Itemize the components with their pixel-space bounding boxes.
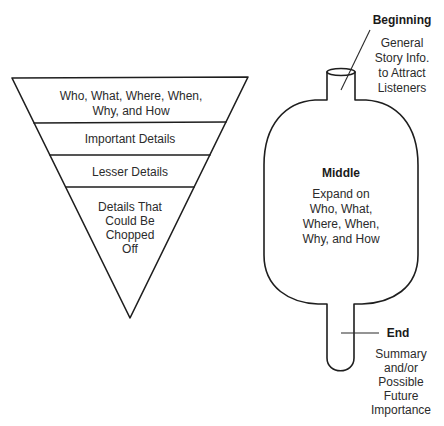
pyramid-text: Chopped xyxy=(106,228,155,242)
end-text: Summary xyxy=(375,347,426,361)
pyramid-divider-1 xyxy=(34,122,226,123)
pyramid-section-important-details: Important Details xyxy=(85,132,176,146)
middle-text: Who, What, xyxy=(310,202,373,216)
end-text: Future xyxy=(384,389,419,403)
end-label: End Summary and/or Possible Future Impor… xyxy=(371,326,431,417)
pyramid-section-who-what: Who, What, Where, When, Why, and How xyxy=(60,89,203,118)
beginning-title: Beginning xyxy=(373,13,432,27)
pyramid-text: Lesser Details xyxy=(92,165,168,179)
pyramid-text: Off xyxy=(122,242,138,256)
middle-title: Middle xyxy=(322,166,360,180)
middle-text: Expand on xyxy=(312,187,369,201)
pyramid-section-lesser-details: Lesser Details xyxy=(92,165,168,179)
end-text: Possible xyxy=(378,375,424,389)
story-bottle: Beginning General Story Info. to Attract… xyxy=(264,13,431,417)
beginning-text: General xyxy=(381,36,424,50)
end-text: Importance xyxy=(371,403,431,417)
pyramid-text: Could Be xyxy=(105,214,155,228)
middle-label: Middle Expand on Who, What, Where, When,… xyxy=(302,166,379,246)
end-title: End xyxy=(387,326,410,340)
pyramid-text: Important Details xyxy=(85,132,176,146)
middle-text: Where, When, xyxy=(303,217,380,231)
beginning-text: to Attract xyxy=(378,66,426,80)
pyramid-text: Who, What, Where, When, xyxy=(60,89,203,103)
inverted-pyramid: Who, What, Where, When, Why, and How Imp… xyxy=(12,77,248,318)
pyramid-text: Why, and How xyxy=(92,104,169,118)
beginning-text: Story Info. xyxy=(375,51,430,65)
beginning-text: Listeners xyxy=(378,81,427,95)
beginning-label: Beginning General Story Info. to Attract… xyxy=(373,13,432,95)
pyramid-text: Details That xyxy=(98,200,162,214)
end-text: and/or xyxy=(384,361,418,375)
story-structure-diagram: Who, What, Where, When, Why, and How Imp… xyxy=(0,0,444,426)
middle-text: Why, and How xyxy=(302,232,379,246)
pyramid-section-chopped-off: Details That Could Be Chopped Off xyxy=(98,200,162,256)
